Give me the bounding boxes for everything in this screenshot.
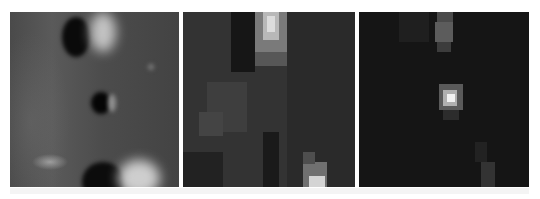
pixel-block [435,22,453,42]
image-figure [0,0,540,199]
pixel-block [309,176,325,187]
pixel-block [263,132,279,187]
bright-rim-feature [118,160,160,187]
pixel-block [231,12,255,72]
pixel-block [443,110,459,120]
panel-2-blocks [183,12,355,187]
pixel-block [437,12,453,22]
panel-pixelated-mid [183,12,355,187]
pixel-block [447,94,455,102]
pixel-block [475,142,487,162]
faint-rim-feature [108,94,116,112]
panel-surface-craters [10,12,179,187]
pixel-block [267,16,275,32]
pixel-block [255,52,287,66]
pixel-block [399,12,429,42]
panel-pixelated-dark [359,12,529,187]
bottom-strip [10,188,529,194]
pixel-block [437,42,451,52]
pixel-block [199,112,223,136]
pixel-block [481,162,495,187]
bright-rim-feature [90,12,116,52]
pixel-block [287,12,355,187]
dark-crater-feature [62,17,90,57]
pixel-block [183,152,223,187]
pixel-block [303,152,315,164]
panel-1-features [10,12,179,187]
panel-3-blocks [359,12,529,187]
speck-feature [148,64,154,70]
